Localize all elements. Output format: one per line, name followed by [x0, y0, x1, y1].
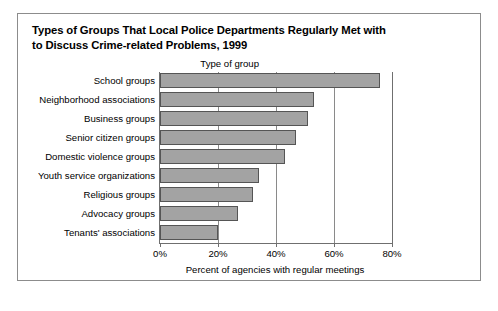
bar [160, 149, 285, 164]
x-axis-tick [392, 243, 393, 247]
bar-category-label: Religious groups [84, 187, 155, 202]
bar [160, 168, 259, 183]
bar-category-label: School groups [94, 73, 155, 88]
bar-category-label: Senior citizen groups [65, 130, 155, 145]
bar-chart: Type of group School groupsNeighborhood … [18, 58, 482, 280]
bar [160, 187, 253, 202]
bar-row: Tenants' associations [160, 224, 392, 243]
bar [160, 92, 314, 107]
bar-category-label: Advocacy groups [81, 206, 155, 221]
category-axis-title: Type of group [18, 58, 259, 69]
bar [160, 130, 296, 145]
title-line-2: to Discuss Crime-related Problems, 1999 [32, 38, 462, 53]
title-line-1: Types of Groups That Local Police Depart… [32, 23, 462, 38]
x-axis-tick [160, 243, 161, 247]
bar-row: Advocacy groups [160, 205, 392, 224]
plot-area: School groupsNeighborhood associationsBu… [159, 72, 393, 244]
bar-rows: School groupsNeighborhood associationsBu… [160, 72, 392, 243]
bar-row: School groups [160, 72, 392, 91]
bar [160, 225, 218, 240]
bar-row: Religious groups [160, 186, 392, 205]
bar-row: Youth service organizations [160, 167, 392, 186]
page-title: Types of Groups That Local Police Depart… [32, 23, 462, 52]
x-axis-tick-label: 80% [382, 248, 401, 259]
bar-row: Domestic violence groups [160, 148, 392, 167]
bar-category-label: Tenants' associations [64, 225, 155, 240]
x-axis-tick [276, 243, 277, 247]
x-axis-tick-label: 40% [266, 248, 285, 259]
bar [160, 206, 238, 221]
bar-category-label: Neighborhood associations [39, 92, 155, 107]
chart-panel: Types of Groups That Local Police Depart… [17, 13, 481, 281]
bar [160, 111, 308, 126]
bar [160, 73, 380, 88]
x-axis-tick [334, 243, 335, 247]
bar-category-label: Youth service organizations [38, 168, 155, 183]
x-axis-tick-label: 20% [208, 248, 227, 259]
bar-row: Neighborhood associations [160, 91, 392, 110]
x-axis-label: Percent of agencies with regular meeting… [159, 264, 391, 275]
x-axis-tick-label: 0% [153, 248, 167, 259]
bar-category-label: Business groups [84, 111, 155, 126]
bar-category-label: Domestic violence groups [45, 149, 155, 164]
bar-row: Business groups [160, 110, 392, 129]
x-axis-tick [218, 243, 219, 247]
bar-row: Senior citizen groups [160, 129, 392, 148]
x-axis-tick-label: 60% [324, 248, 343, 259]
